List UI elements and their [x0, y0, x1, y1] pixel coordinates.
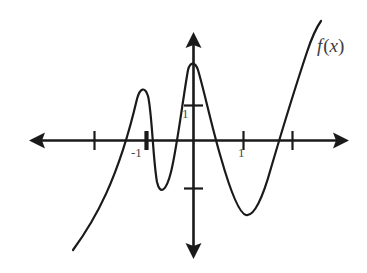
plot-canvas: [0, 0, 367, 273]
function-curve: [73, 21, 321, 250]
x-axis-group: [29, 133, 349, 149]
function-graph-figure: -1 1 1 f(x): [0, 0, 367, 273]
y-axis-group: [186, 32, 202, 259]
